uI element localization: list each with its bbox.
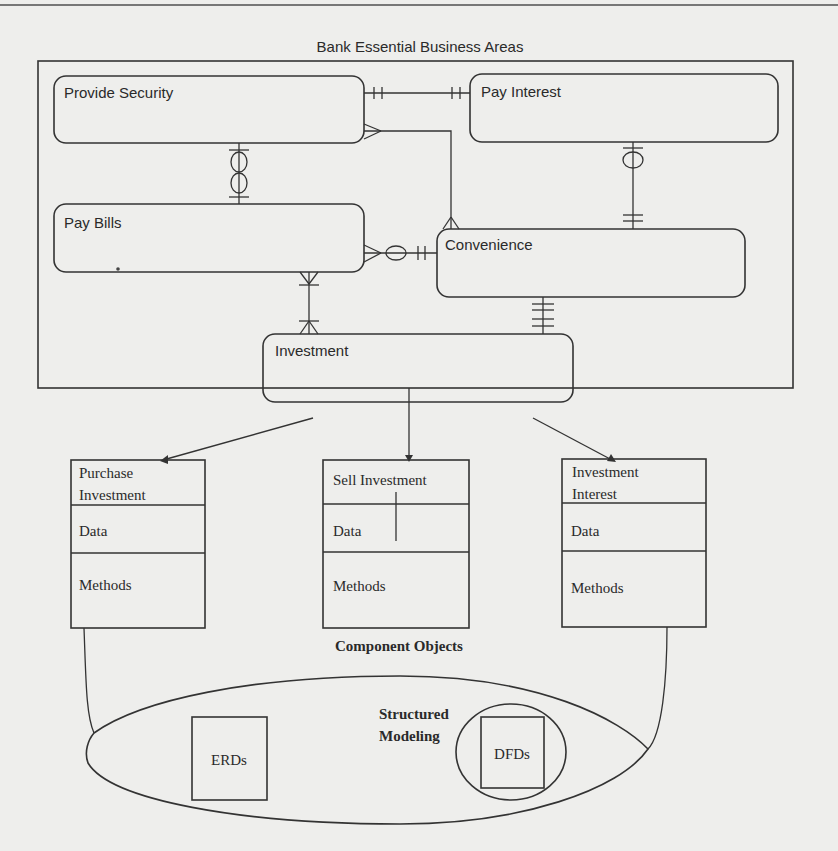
component-methods-label: Methods [79,577,132,593]
relationship-paybills-investment [299,272,319,334]
erds-label: ERDs [211,752,247,768]
entity-convenience[interactable]: Convenience [437,229,745,297]
entity-label: Investment [275,342,349,359]
erds-box[interactable]: ERDs [192,717,267,800]
entity-label: Pay Bills [64,214,122,231]
component-data-label: Data [571,523,600,539]
component-data-label: Data [79,523,108,539]
arrows-to-components [160,388,616,464]
entity-label: Pay Interest [481,83,562,100]
dfds-box[interactable]: DFDs [456,704,566,800]
entity-label: Provide Security [64,84,174,101]
component-methods-label: Methods [571,580,624,596]
relationship-convenience-investment [532,297,554,334]
relationship-interest-convenience [623,142,643,229]
component-objects-label: Component Objects [335,638,463,654]
structured-modeling-label: Structured [379,706,449,722]
entity-label: Convenience [445,236,533,253]
component-sell-investment[interactable]: Sell Investment Data Methods [323,460,469,628]
dfds-label: DFDs [494,746,530,762]
relationship-security-interest [364,87,470,99]
entity-investment[interactable]: Investment [263,334,573,402]
component-name: Purchase [79,465,133,481]
component-investment-interest[interactable]: Investment Interest Data Methods [562,459,706,627]
entity-pay-interest[interactable]: Pay Interest [470,74,778,142]
entity-provide-security[interactable]: Provide Security [54,76,364,143]
component-data-label: Data [333,523,362,539]
relationship-security-paybills [229,143,249,204]
component-purchase-investment[interactable]: Purchase Investment Data Methods [71,460,205,628]
component-name: Interest [572,486,618,502]
speck [116,267,120,271]
relationship-paybills-convenience [364,245,437,262]
component-methods-label: Methods [333,578,386,594]
structured-modeling-ellipse[interactable]: Structured Modeling [86,676,648,824]
diagram-title: Bank Essential Business Areas [317,38,524,55]
relationship-security-convenience [364,124,459,229]
component-name: Investment [572,464,639,480]
diagram-canvas: Bank Essential Business Areas Provide Se… [0,0,838,851]
business-areas-container [38,61,793,388]
structured-modeling-label: Modeling [379,728,440,744]
component-name: Sell Investment [333,472,428,488]
component-name: Investment [79,487,146,503]
entity-pay-bills[interactable]: Pay Bills [54,204,364,272]
